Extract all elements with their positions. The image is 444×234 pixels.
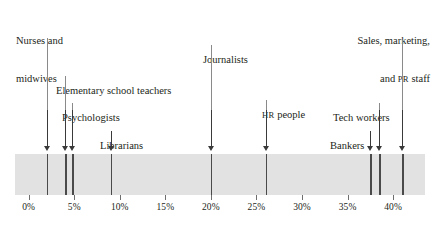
- annotation-label-hr-people-smallcaps: HR: [262, 110, 275, 120]
- arrow-head: [62, 146, 68, 151]
- arrow-head: [44, 146, 50, 151]
- rug-line: [111, 154, 113, 195]
- annotation-label-hr-people: HR people: [262, 84, 305, 147]
- arrow-head: [108, 146, 114, 151]
- axis-tick: [348, 195, 349, 200]
- axis-tick: [74, 195, 75, 200]
- axis-tick: [120, 195, 121, 200]
- leader-line: [402, 40, 403, 110]
- rug-line: [370, 154, 372, 195]
- arrow-head: [376, 146, 382, 151]
- x-axis: 0%5%10%15%20%25%30%35%40%: [15, 195, 425, 231]
- axis-tick-label: 30%: [293, 202, 311, 212]
- annotation-label-sales-marketing-pr: Sales, marketing, and PR staff: [357, 10, 430, 110]
- axis-tick: [165, 195, 166, 200]
- arrow-stem: [379, 110, 380, 146]
- axis-tick: [256, 195, 257, 200]
- axis-tick: [211, 195, 212, 200]
- leader-line: [266, 100, 267, 110]
- leader-line: [379, 103, 380, 110]
- rug-line: [211, 154, 213, 195]
- leader-line: [47, 38, 48, 110]
- annotation-label-journalists: Journalists: [203, 29, 248, 92]
- leader-line: [211, 45, 212, 110]
- arrow-head: [208, 146, 214, 151]
- axis-tick-label: 35%: [339, 202, 357, 212]
- arrow-stem: [72, 110, 73, 146]
- axis-tick-label: 20%: [202, 202, 220, 212]
- arrow-head: [263, 146, 269, 151]
- arrow-head: [399, 146, 405, 151]
- axis-tick-label: 10%: [111, 202, 129, 212]
- arrow-head: [367, 146, 373, 151]
- rug-line: [65, 154, 67, 195]
- rug-lines: [15, 154, 425, 195]
- arrow-stem: [370, 131, 371, 146]
- arrow-stem: [47, 110, 48, 146]
- distribution-band: [15, 154, 425, 195]
- leader-line: [65, 76, 66, 110]
- annotation-label-sales-marketing-pr-line2-suffix: staff: [409, 73, 430, 84]
- axis-tick: [302, 195, 303, 200]
- arrow-stem: [402, 110, 403, 146]
- annotation-label-journalists-line1: Journalists: [203, 54, 248, 67]
- rug-line: [47, 154, 49, 195]
- annotation-label-tech-workers-line1: Tech workers: [333, 112, 390, 125]
- axis-tick-label: 0%: [22, 202, 35, 212]
- annotation-label-sales-marketing-pr-line1: Sales, marketing,: [357, 35, 430, 48]
- annotation-label-sales-marketing-pr-line2-prefix: and: [380, 73, 398, 84]
- arrow-stem: [211, 110, 212, 146]
- arrow-stem: [111, 131, 112, 146]
- leader-line: [72, 103, 73, 110]
- axis-tick: [393, 195, 394, 200]
- axis-tick-label: 40%: [384, 202, 402, 212]
- axis-tick-label: 25%: [248, 202, 266, 212]
- annotation-label-sales-marketing-pr-smallcaps: PR: [398, 74, 409, 84]
- arrow-head: [69, 146, 75, 151]
- strip-chart: Nurses and midwives Elementary school te…: [0, 0, 444, 234]
- annotation-label-hr-people-line1: people: [275, 109, 306, 120]
- rug-line: [266, 154, 268, 195]
- rug-line: [72, 154, 74, 195]
- annotation-label-librarians-line1: Librarians: [100, 140, 143, 153]
- rug-line: [402, 154, 404, 195]
- arrow-stem: [266, 110, 267, 146]
- axis-tick-label: 15%: [156, 202, 174, 212]
- axis-tick: [29, 195, 30, 200]
- annotation-label-nurses-line1: Nurses and: [16, 35, 63, 48]
- arrow-stem: [65, 110, 66, 146]
- rug-line: [379, 154, 381, 195]
- axis-tick-label: 5%: [68, 202, 81, 212]
